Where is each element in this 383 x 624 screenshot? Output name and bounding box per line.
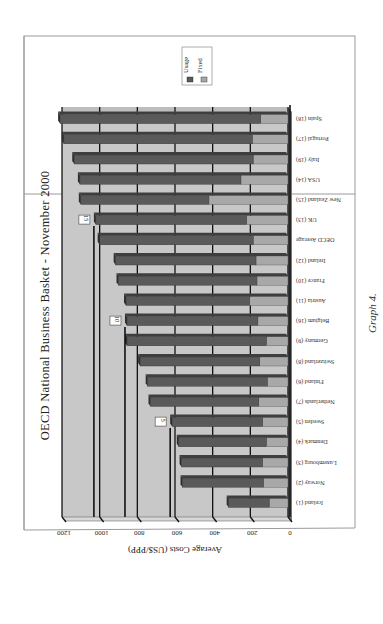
bar-top-face [94,213,288,216]
bar-top-face [62,132,288,135]
category-label: Sweden (5) [296,418,324,426]
rank-marker-label: 15 [83,215,90,222]
bar-usage [127,337,266,346]
bar-top-face [170,415,288,418]
bar-usage [183,478,264,487]
bar-top-face [114,253,288,256]
bar-usage [119,276,257,285]
bar-fixed [263,458,288,467]
category-label: Portugal (17) [296,135,329,143]
y-tick-label: 800 [134,529,145,537]
bar-usage [74,155,253,164]
bar-group [62,132,288,144]
bar-top-face [125,334,288,337]
y-tick-label: 200 [247,529,258,537]
bar-fixed [269,498,288,507]
bar-fixed [261,115,288,124]
bar-fixed [253,236,288,245]
bar-top-face [78,172,288,175]
bar-usage [80,175,241,184]
bar-usage [182,458,263,467]
legend: UsageFixed [182,47,212,85]
category-label: Iceland (1) [296,499,323,507]
legend-label-usage: Usage [182,57,189,73]
bar-fixed [260,357,288,366]
category-label: Denmark (4) [296,438,328,446]
bar-group [72,152,288,164]
bar-fixed [209,195,288,204]
bar-usage [179,438,267,447]
bar-group [114,253,288,265]
bar-top-face [98,233,288,236]
bar-usage [116,256,256,265]
category-label: France (10) [296,277,325,285]
bar-fixed [258,317,288,326]
category-label: Switzerland (8) [296,358,334,366]
bar-top-face [181,475,288,478]
bar-fixed [253,155,288,164]
bar-fixed [263,418,288,427]
bar-usage [151,397,259,406]
bar-top-face [227,495,288,498]
bar-group [177,435,288,447]
y-axis-label: Average Costs (US$/PPP) [128,545,222,555]
bar-group [170,415,288,427]
category-label: UK (13) [296,216,317,224]
graph-caption: Graph 4. [366,253,378,333]
chart-title: OECD National Business Basket - November… [38,171,53,441]
bar-fixed [264,478,288,487]
bar-fixed [257,276,288,285]
y-tick-label: 1000 [94,529,109,537]
bar-group [58,112,288,124]
bar-fixed [259,397,288,406]
category-label: USA (14) [296,176,320,184]
legend-swatch-fixed [201,77,207,82]
bar-group [125,334,288,346]
legend-swatch-usage [187,77,193,82]
category-label: Germany (9) [296,337,328,345]
y-tick-label: 0 [288,529,292,537]
category-label: New Zealand (15) [296,196,341,204]
bar-top-face [72,152,288,155]
bar-top-face [125,314,288,317]
bar-usage [148,377,268,386]
bar-group [78,172,288,184]
bar-top-face [138,354,288,357]
bar-usage [172,418,262,427]
category-label: Netherlands (7) [296,398,335,406]
bar-group [117,273,289,285]
bar-group [146,374,288,386]
bar-top-face [58,112,288,115]
bar-top-face [117,273,289,276]
bar-usage [60,115,261,124]
category-label: Spain (18) [296,115,322,123]
rank-marker-label: 10 [114,316,121,323]
bar-group [124,293,288,305]
bar-usage [100,236,253,245]
bar-fixed [266,337,288,346]
bar-group [79,192,288,204]
bar-top-face [149,394,288,397]
chart-title-wrap: OECD National Business Basket - November… [30,178,60,438]
category-label: Norway (2) [296,479,325,487]
bar-group [181,475,288,487]
rank-marker-label: 5 [160,418,167,421]
bar-top-face [180,455,288,458]
bar-usage [96,216,247,225]
bar-fixed [266,438,288,447]
bar-top-face [79,192,288,195]
bar-top-face [177,435,288,438]
caption-wrap: Graph 4. [352,265,383,325]
bar-group [138,354,288,366]
bar-group [125,314,288,326]
category-label: Finland (6) [296,378,324,386]
category-label: Belgium (16) [296,317,329,325]
bar-fixed [247,216,288,225]
category-label: OECD Average [296,237,335,244]
bar-group [98,233,288,245]
legend-label-fixed: Fixed [196,57,203,73]
bar-fixed [252,135,288,144]
category-label: Luxembourg (3) [296,459,337,467]
y-tick-label: 1200 [57,529,72,537]
